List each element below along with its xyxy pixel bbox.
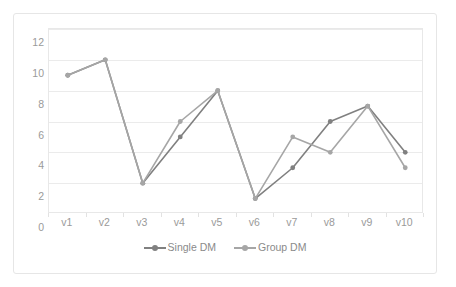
data-point: [403, 165, 408, 170]
x-axis-tick-label: v2: [99, 217, 110, 228]
legend-dot: [152, 245, 158, 251]
series-line: [68, 60, 406, 199]
x-axis-tick-label: v6: [249, 217, 260, 228]
x-axis-tick: [161, 213, 162, 217]
x-axis-tick: [273, 213, 274, 217]
data-point: [140, 181, 145, 186]
x-axis: v1v2v3v4v5v6v7v8v9v10: [48, 217, 423, 237]
chart-legend: Single DMGroup DM: [14, 242, 436, 253]
x-axis-tick: [386, 213, 387, 217]
x-axis-tick-label: v3: [136, 217, 147, 228]
data-point: [328, 119, 333, 124]
series-2: [65, 57, 407, 201]
series-line: [68, 60, 406, 199]
legend-marker-icon: [144, 243, 166, 252]
y-axis-tick-label: 6: [18, 130, 44, 141]
y-axis-tick-label: 4: [18, 160, 44, 171]
x-axis-tick: [236, 213, 237, 217]
legend-label: Group DM: [258, 242, 306, 253]
x-axis-tick-label: v1: [61, 217, 72, 228]
series-1: [65, 57, 407, 201]
y-axis: 024681012: [14, 28, 44, 213]
legend-item-1[interactable]: Single DM: [144, 242, 216, 253]
legend-dot: [242, 245, 248, 251]
x-axis-tick-label: v4: [174, 217, 185, 228]
y-axis-tick-label: 8: [18, 99, 44, 110]
x-axis-tick-label: v9: [361, 217, 372, 228]
y-axis-tick-label: 10: [18, 68, 44, 79]
legend-label: Single DM: [168, 242, 216, 253]
x-axis-tick: [86, 213, 87, 217]
y-axis-tick-label: 12: [18, 37, 44, 48]
x-axis-tick-label: v8: [324, 217, 335, 228]
x-axis-tick: [348, 213, 349, 217]
data-point: [290, 165, 295, 170]
data-point: [365, 104, 370, 109]
data-point: [65, 73, 70, 78]
data-point: [328, 150, 333, 155]
data-point: [178, 135, 183, 140]
series-layer: [49, 29, 424, 214]
legend-marker-icon: [234, 243, 256, 252]
data-point: [103, 57, 108, 62]
y-axis-tick-label: 0: [18, 222, 44, 233]
plot-area: [48, 28, 423, 213]
data-point: [290, 135, 295, 140]
x-axis-tick-label: v5: [211, 217, 222, 228]
x-axis-tick-label: v10: [396, 217, 413, 228]
legend-item-2[interactable]: Group DM: [234, 242, 306, 253]
data-point: [403, 150, 408, 155]
x-axis-tick: [423, 213, 424, 217]
x-axis-tick-label: v7: [286, 217, 297, 228]
chart-frame: 024681012 v1v2v3v4v5v6v7v8v9v10 Single D…: [13, 13, 437, 274]
data-point: [253, 196, 258, 201]
x-axis-tick: [311, 213, 312, 217]
y-axis-tick-label: 2: [18, 191, 44, 202]
x-axis-tick: [198, 213, 199, 217]
data-point: [178, 119, 183, 124]
x-axis-tick: [123, 213, 124, 217]
data-point: [215, 88, 220, 93]
x-axis-tick: [48, 213, 49, 217]
